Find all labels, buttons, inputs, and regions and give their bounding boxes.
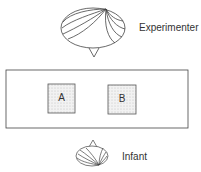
infant-label: Infant	[122, 151, 147, 162]
experimenter-head-icon	[61, 8, 125, 57]
location-b-label: B	[108, 93, 136, 104]
location-a-label: A	[48, 92, 75, 103]
table-surface	[6, 70, 188, 128]
infant-head-icon	[76, 140, 108, 166]
experimenter-label: Experimenter	[139, 22, 198, 33]
